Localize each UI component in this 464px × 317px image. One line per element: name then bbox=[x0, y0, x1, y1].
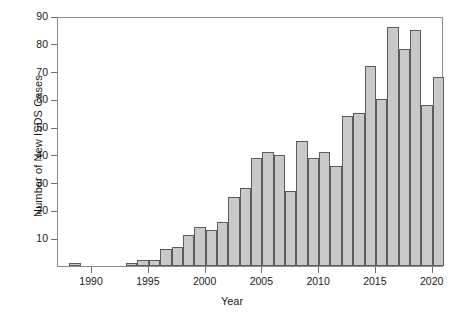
x-tick-label: 2000 bbox=[185, 275, 225, 287]
bar bbox=[69, 263, 80, 266]
x-tick-mark bbox=[205, 267, 206, 273]
bar bbox=[228, 197, 239, 266]
bar bbox=[319, 152, 330, 266]
x-tick-mark bbox=[148, 267, 149, 273]
x-tick-label: 1995 bbox=[128, 275, 168, 287]
bar bbox=[433, 77, 444, 266]
bar bbox=[149, 260, 160, 266]
plot-area bbox=[57, 17, 443, 267]
y-tick-label: 40 bbox=[22, 149, 48, 161]
bar bbox=[194, 227, 205, 266]
bar bbox=[240, 188, 251, 266]
bar bbox=[262, 152, 273, 266]
bar bbox=[160, 249, 171, 266]
y-tick-label: 50 bbox=[22, 121, 48, 133]
bar bbox=[285, 191, 296, 266]
x-axis-title: Year bbox=[0, 295, 464, 307]
bar bbox=[206, 230, 217, 266]
bar bbox=[251, 158, 262, 266]
x-tick-label: 2005 bbox=[241, 275, 281, 287]
bar bbox=[126, 263, 137, 266]
bar bbox=[399, 49, 410, 266]
y-tick-label: 80 bbox=[22, 38, 48, 50]
bar bbox=[376, 99, 387, 266]
bar bbox=[137, 260, 148, 266]
bar bbox=[172, 247, 183, 266]
y-tick-label: 10 bbox=[22, 232, 48, 244]
bar bbox=[353, 113, 364, 266]
y-tick-label: 30 bbox=[22, 177, 48, 189]
x-tick-mark bbox=[318, 267, 319, 273]
bar bbox=[296, 141, 307, 266]
x-tick-label: 2010 bbox=[298, 275, 338, 287]
y-tick-label: 60 bbox=[22, 93, 48, 105]
bar bbox=[274, 155, 285, 266]
bar bbox=[365, 66, 376, 266]
bar bbox=[217, 222, 228, 266]
bar bbox=[308, 158, 319, 266]
bar bbox=[421, 105, 432, 266]
bar bbox=[183, 235, 194, 266]
x-tick-mark bbox=[432, 267, 433, 273]
bar bbox=[410, 30, 421, 266]
bars-container bbox=[58, 18, 442, 266]
chart-figure: Number of New ISDS Cases Year 1020304050… bbox=[0, 0, 464, 317]
y-tick-label: 90 bbox=[22, 10, 48, 22]
y-tick-label: 70 bbox=[22, 66, 48, 78]
x-tick-mark bbox=[375, 267, 376, 273]
y-tick-label: 20 bbox=[22, 204, 48, 216]
bar bbox=[330, 166, 341, 266]
x-tick-mark bbox=[261, 267, 262, 273]
x-tick-label: 1990 bbox=[71, 275, 111, 287]
x-tick-label: 2020 bbox=[412, 275, 452, 287]
bar bbox=[342, 116, 353, 266]
x-tick-label: 2015 bbox=[355, 275, 395, 287]
bar bbox=[387, 27, 398, 266]
x-tick-mark bbox=[91, 267, 92, 273]
